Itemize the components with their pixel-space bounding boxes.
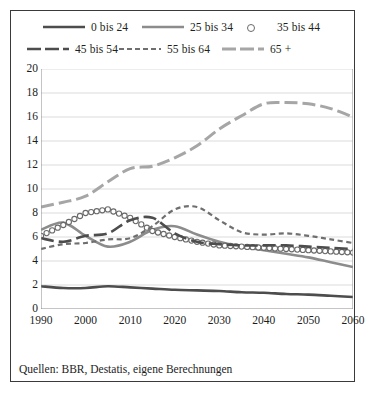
legend-item-35-bis-44[interactable]: 35 bis 44 [227,17,320,37]
data-point-marker [55,225,60,230]
chart-legend: 0 bis 2425 bis 3435 bis 44 45 bis 5455 b… [11,15,356,63]
data-point-marker [111,209,116,214]
y-axis-tick-label: 8 [32,207,38,219]
x-axis-tick-label: 2010 [119,315,142,327]
data-point-marker [150,228,155,233]
x-axis-tick-label: 2030 [208,315,231,327]
data-point-marker [50,228,55,233]
source-caption: Quellen: BBR, Destatis, eigene Berechnun… [19,363,349,375]
chart-svg [41,69,353,309]
legend-label: 55 bis 64 [163,43,210,55]
data-point-marker [239,244,244,249]
data-point-marker [155,230,160,235]
data-point-marker [61,222,66,227]
data-point-marker [139,222,144,227]
data-point-marker [300,247,305,252]
y-axis-tick-label: 4 [32,255,38,267]
legend-swatch-longdash-line [25,42,71,56]
x-axis-tick-label: 2050 [297,315,320,327]
x-axis-tick-label: 2000 [74,315,97,327]
chart-frame: 0 bis 2425 bis 3435 bis 44 45 bis 5455 b… [10,10,355,382]
y-axis-tick-label: 16 [27,111,39,123]
data-point-marker [100,208,105,213]
data-point-marker [334,249,339,254]
data-point-marker [122,213,127,218]
legend-swatch-longdash-line [220,42,266,56]
legend-item-55-bis-64[interactable]: 55 bis 64 [117,39,210,59]
legend-row-2: 45 bis 5455 bis 6465 + [11,39,356,59]
data-point-marker [105,207,110,212]
legend-swatch-circle-marker [227,20,273,34]
data-point-marker [284,246,289,251]
y-axis-tick-label: 10 [27,183,39,195]
legend-label: 65 + [266,43,291,55]
legend-label: 0 bis 24 [87,21,128,33]
data-point-marker [328,249,333,254]
series-65 [41,102,353,207]
x-axis-tick-label: 2060 [342,315,365,327]
legend-item-45-bis-54[interactable]: 45 bis 54 [25,39,118,59]
data-point-marker [311,248,316,253]
legend-item-25-bis-34[interactable]: 25 bis 34 [140,17,233,37]
legend-swatch-solid-line [140,20,186,34]
data-point-marker [77,213,82,218]
x-axis-labels: 19902000201020202030204020502060 [11,315,356,335]
y-axis-tick-label: 2 [32,279,38,291]
data-point-marker [323,249,328,254]
data-point-marker [89,210,94,215]
data-point-marker [295,247,300,252]
plot-canvas [41,69,353,309]
legend-item-0-bis-24[interactable]: 0 bis 24 [41,17,128,37]
y-axis-tick-label: 12 [27,159,39,171]
legend-item-65[interactable]: 65 + [220,39,291,59]
data-point-marker [94,209,99,214]
circle-marker-icon [247,24,255,32]
plot-area-wrapper: 02468101214161820 1990200020102020203020… [11,63,356,353]
legend-row-1: 0 bis 2425 bis 3435 bis 44 [11,17,356,37]
data-point-marker [289,247,294,252]
x-axis-tick-label: 2020 [163,315,186,327]
series-35-bis-44 [41,207,353,255]
data-point-marker [83,210,88,215]
data-point-marker [317,248,322,253]
x-axis-tick-label: 2040 [252,315,275,327]
y-axis-tick-label: 18 [27,87,39,99]
y-axis-tick-label: 20 [27,63,39,75]
legend-label: 35 bis 44 [273,21,320,33]
data-point-marker [306,248,311,253]
legend-label: 45 bis 54 [71,43,118,55]
data-point-marker [116,211,121,216]
y-axis-tick-label: 14 [27,135,39,147]
data-point-marker [44,231,49,236]
x-axis-tick-label: 1990 [30,315,53,327]
data-point-marker [66,219,71,224]
legend-swatch-solid-line [41,20,87,34]
data-point-marker [339,249,344,254]
data-point-marker [167,233,172,238]
data-point-marker [72,216,77,221]
legend-swatch-shortdash-line [117,42,163,56]
data-point-marker [345,250,350,255]
y-axis-labels: 02468101214161820 [11,63,41,353]
series-0-bis-24 [41,286,353,297]
y-axis-tick-label: 6 [32,231,38,243]
data-point-marker [161,231,166,236]
data-point-marker [278,246,283,251]
